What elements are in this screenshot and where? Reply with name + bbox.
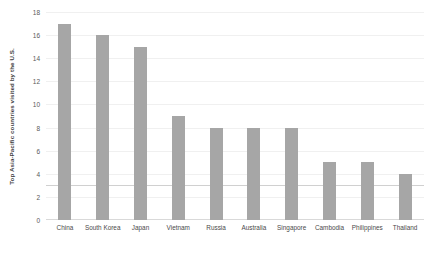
x-tick-label: Australia (235, 224, 273, 264)
x-tick-label: Russia (197, 224, 235, 264)
bar[interactable] (361, 162, 374, 220)
bar-slot (84, 12, 122, 220)
x-tick-label: China (46, 224, 84, 264)
x-tick-label: Singapore (273, 224, 311, 264)
y-axis-tick-labels: 181614121086420 (22, 0, 44, 232)
y-tick-label: 12 (33, 78, 40, 85)
plot-area (46, 12, 424, 220)
bar[interactable] (134, 47, 147, 220)
y-tick-label: 0 (36, 217, 40, 224)
y-tick-label: 18 (33, 9, 40, 16)
bar-slot (159, 12, 197, 220)
bar-slot (348, 12, 386, 220)
x-tick-label: Cambodia (311, 224, 349, 264)
y-tick-label: 10 (33, 101, 40, 108)
bar[interactable] (247, 128, 260, 220)
y-tick-label: 14 (33, 55, 40, 62)
y-tick-label: 6 (36, 147, 40, 154)
bar[interactable] (285, 128, 298, 220)
x-tick-label: Vietnam (159, 224, 197, 264)
bar-series (46, 12, 424, 220)
bar-slot (386, 12, 424, 220)
y-tick-label: 4 (36, 170, 40, 177)
bar-slot (122, 12, 160, 220)
bar[interactable] (323, 162, 336, 220)
y-tick-label: 8 (36, 124, 40, 131)
y-axis-title: Top Asia-Pacific countries visited by th… (0, 0, 22, 232)
x-tick-label: Thailand (386, 224, 424, 264)
x-axis-tick-labels: ChinaSouth KoreaJapanVietnamRussiaAustra… (46, 224, 424, 264)
x-tick-label: South Korea (84, 224, 122, 264)
x-tick-label: Philippines (348, 224, 386, 264)
y-tick-label: 2 (36, 193, 40, 200)
bar[interactable] (96, 35, 109, 220)
bar-slot (311, 12, 349, 220)
bar[interactable] (210, 128, 223, 220)
bar-slot (273, 12, 311, 220)
bar-slot (235, 12, 273, 220)
bar-slot (197, 12, 235, 220)
bar[interactable] (58, 24, 71, 220)
bar[interactable] (172, 116, 185, 220)
y-axis-title-label: Top Asia-Pacific countries visited by th… (8, 48, 15, 185)
y-tick-label: 16 (33, 32, 40, 39)
bar-chart: Top Asia-Pacific countries visited by th… (0, 0, 430, 267)
bar-slot (46, 12, 84, 220)
bar[interactable] (399, 174, 412, 220)
x-tick-label: Japan (122, 224, 160, 264)
